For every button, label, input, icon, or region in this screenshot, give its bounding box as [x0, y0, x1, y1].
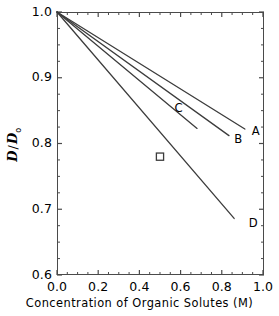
x-axis-tick-labels: 0.0 0.2 0.4 0.6 0.8 1.0	[0, 281, 279, 297]
series-label-b: B	[234, 134, 242, 146]
y-axis-title: D/Do	[5, 100, 23, 190]
y-axis-title-numerator: D	[5, 150, 20, 161]
y-axis-title-separator: /	[5, 144, 20, 150]
y-tick-label: 0.7	[2, 203, 52, 216]
x-tick-label: 0.8	[202, 281, 242, 294]
series-label-d: D	[249, 218, 258, 230]
plot-area	[57, 12, 264, 275]
y-axis-title-denominator: D	[5, 133, 20, 144]
x-tick-label: 0.0	[37, 281, 77, 294]
figure-chart: 1.0 0.9 0.8 0.7 0.6 0.0 0.2 0.4 0.6 0.8 …	[0, 0, 279, 316]
x-axis-title: Concentration of Organic Solutes (M)	[0, 296, 279, 310]
series-label-c: C	[174, 103, 182, 115]
y-tick-label: 0.9	[2, 71, 52, 84]
series-label-a: A	[252, 126, 260, 138]
x-tick-label: 0.2	[78, 281, 118, 294]
x-tick-label: 0.4	[119, 281, 159, 294]
y-axis-title-subscript: o	[14, 128, 23, 133]
x-tick-label: 1.0	[243, 281, 279, 294]
y-tick-label: 0.6	[2, 269, 52, 282]
y-tick-label: 1.0	[2, 6, 52, 19]
x-tick-label: 0.6	[161, 281, 201, 294]
